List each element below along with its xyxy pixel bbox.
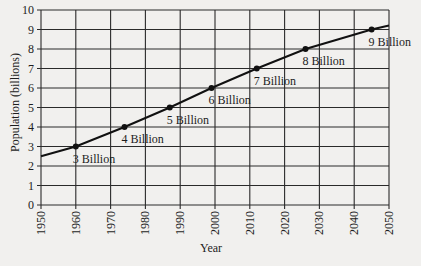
y-tick-label: 4 [28, 120, 34, 134]
data-point-label: 5 Billion [167, 113, 209, 127]
y-tick-label: 9 [28, 23, 34, 37]
y-tick-label: 3 [28, 140, 34, 154]
x-tick-label: 2000 [208, 211, 222, 235]
y-tick-label: 1 [28, 179, 34, 193]
data-point-label: 4 Billion [122, 132, 164, 146]
y-tick-label: 5 [28, 101, 34, 115]
y-tick-label: 2 [28, 159, 34, 173]
data-point-marker [73, 144, 79, 150]
data-point-marker [254, 66, 260, 72]
data-point-label: 7 Billion [254, 74, 296, 88]
y-tick-label: 6 [28, 81, 34, 95]
data-point-label: 3 Billion [73, 152, 115, 166]
data-point-label: 9 Billion [369, 35, 411, 49]
x-tick-label: 2030 [312, 211, 326, 235]
x-axis-label: Year [200, 241, 222, 256]
data-point-marker [209, 85, 215, 91]
x-tick-label: 2010 [243, 211, 257, 235]
x-tick-label: 1980 [138, 211, 152, 235]
x-tick-label: 1970 [104, 211, 118, 235]
data-point-marker [122, 124, 128, 130]
data-point-label: 8 Billion [302, 54, 344, 68]
x-tick-label: 2040 [347, 211, 361, 235]
y-tick-label: 7 [28, 62, 34, 76]
x-tick-label: 2020 [278, 211, 292, 235]
y-tick-label: 10 [22, 3, 34, 17]
data-point-label: 6 Billion [209, 93, 251, 107]
y-axis-label: Population (billions) [8, 48, 23, 158]
y-tick-label: 0 [28, 198, 34, 212]
x-tick-label: 1960 [69, 211, 83, 235]
data-point-marker [167, 105, 173, 111]
data-point-marker [302, 46, 308, 52]
data-point-marker [369, 27, 375, 33]
x-tick-label: 2050 [382, 211, 396, 235]
x-tick-label: 1990 [173, 211, 187, 235]
y-tick-label: 8 [28, 42, 34, 56]
x-tick-label: 1950 [34, 211, 48, 235]
population-line-chart: 1950196019701980199020002010202020302040… [0, 0, 421, 266]
